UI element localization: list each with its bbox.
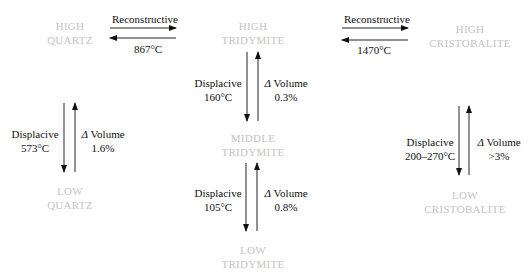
label-temp: 200–270°C [404,149,456,163]
label-volume-value: 0.3% [263,90,309,104]
phase-line: HIGH [40,19,100,33]
label-tridymite-lower-volume: Δ Volume 0.8% [263,186,309,214]
label-type-quartz-tridymite: Reconstructive [110,12,180,26]
delta-symbol: Δ [264,187,270,199]
label-volume-value: 0.8% [263,200,309,214]
delta-symbol: Δ [81,128,87,140]
label-temp: 160°C [193,90,243,104]
phase-low-cristobalite: LOW CRISTOBALITE [415,188,515,216]
delta-symbol: Δ [477,136,483,148]
label-cristobalite-displacive: Displacive 200–270°C [404,135,456,163]
phase-line: HIGH [420,22,520,36]
phase-line: TRIDYMITE [213,145,293,159]
phase-high-quartz: HIGH QUARTZ [40,19,100,47]
label-volume: Volume [274,77,308,89]
label-type: Displacive [193,186,243,200]
phase-line: LOW [40,184,100,198]
label-volume: Volume [91,128,125,140]
label-temp: 573°C [10,141,60,155]
label-type: Displacive [404,135,456,149]
label-tridymite-upper-displacive: Displacive 160°C [193,76,243,104]
phase-high-cristobalite: HIGH CRISTOBALITE [420,22,520,50]
phase-line: TRIDYMITE [213,257,293,271]
phase-line: TRIDYMITE [213,33,293,47]
label-volume-value: 1.6% [80,141,126,155]
label-temp-quartz-tridymite: 867°C [118,42,178,56]
label-volume-value: >3% [474,149,524,163]
label-volume: Volume [487,136,521,148]
label-type-tridymite-cristobalite: Reconstructive [342,12,412,26]
phase-line: CRISTOBALITE [415,202,515,216]
label-quartz-volume: Δ Volume 1.6% [80,127,126,155]
label-temp: 105°C [193,200,243,214]
phase-line: QUARTZ [40,33,100,47]
phase-line: QUARTZ [40,198,100,212]
delta-symbol: Δ [264,77,270,89]
phase-middle-tridymite: MIDDLE TRIDYMITE [213,131,293,159]
label-volume: Volume [274,187,308,199]
label-tridymite-lower-displacive: Displacive 105°C [193,186,243,214]
phase-low-quartz: LOW QUARTZ [40,184,100,212]
label-cristobalite-volume: Δ Volume >3% [474,135,524,163]
phase-line: LOW [213,243,293,257]
label-type: Displacive [10,127,60,141]
label-type: Displacive [193,76,243,90]
label-temp-tridymite-cristobalite: 1470°C [344,43,404,57]
phase-line: LOW [415,188,515,202]
phase-line: CRISTOBALITE [420,36,520,50]
phase-high-tridymite: HIGH TRIDYMITE [213,19,293,47]
phase-low-tridymite: LOW TRIDYMITE [213,243,293,271]
phase-line: HIGH [213,19,293,33]
phase-line: MIDDLE [213,131,293,145]
label-quartz-displacive: Displacive 573°C [10,127,60,155]
label-tridymite-upper-volume: Δ Volume 0.3% [263,76,309,104]
